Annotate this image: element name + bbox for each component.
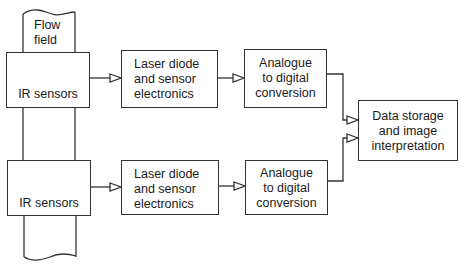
- ir-sensors-label: IR sensors: [7, 87, 89, 102]
- laser-diode-label: Laser diode and sensor electronics: [134, 57, 217, 102]
- data-storage-label: Data storage and image interpretation: [359, 109, 457, 154]
- flow-field-label: Flow field: [34, 18, 60, 48]
- laser-diode-box-bottom: Laser diode and sensor electronics: [121, 160, 219, 215]
- laser-diode-box-top: Laser diode and sensor electronics: [121, 50, 218, 108]
- ir-sensors-box-top: IR sensors: [6, 52, 90, 108]
- adc-box-top: Analogue to digital conversion: [244, 49, 327, 108]
- ir-sensors-box-bottom: IR sensors: [7, 160, 91, 216]
- data-storage-box: Data storage and image interpretation: [358, 100, 458, 161]
- adc-label: Analogue to digital conversion: [245, 56, 326, 101]
- adc-box-bottom: Analogue to digital conversion: [245, 160, 328, 215]
- adc-label: Analogue to digital conversion: [246, 166, 327, 211]
- ir-sensors-label: IR sensors: [8, 196, 90, 211]
- laser-diode-label: Laser diode and sensor electronics: [134, 167, 218, 212]
